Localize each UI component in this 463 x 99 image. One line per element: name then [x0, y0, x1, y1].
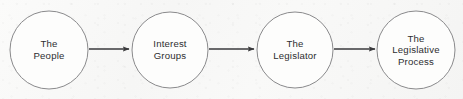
flow-diagram: The People Interest Groups The Legislato… [0, 0, 463, 99]
diagram-canvas [0, 0, 463, 99]
nodes-layer [10, 11, 455, 89]
node-circle-the-legislator[interactable] [257, 12, 333, 88]
node-circle-the-people[interactable] [10, 11, 88, 89]
node-circle-the-legislative-process[interactable] [377, 11, 455, 89]
node-circle-interest-groups[interactable] [132, 12, 208, 88]
